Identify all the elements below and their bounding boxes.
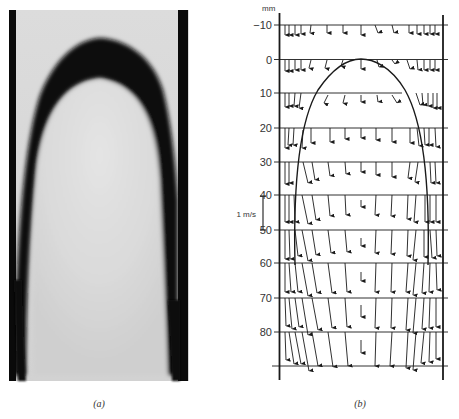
caption-b: (b) — [354, 398, 366, 410]
y-tick: 60 — [260, 257, 272, 269]
y-tick: −10 — [253, 19, 272, 31]
y-tick: 0 — [266, 54, 272, 66]
figure: (a) — [0, 0, 459, 419]
y-tick: 50 — [260, 224, 272, 236]
y-tick: 70 — [260, 292, 272, 304]
y-tick: 20 — [260, 122, 272, 134]
y-tick-labels: −10 0 10 20 30 40 50 60 70 80 — [253, 19, 272, 338]
y-tick: 80 — [260, 326, 272, 338]
y-tick: 40 — [260, 189, 272, 201]
axis-unit-label: mm — [262, 4, 276, 13]
y-tick: 30 — [260, 156, 272, 168]
panel-a-photo — [9, 10, 189, 381]
panel-b-diagram — [260, 13, 448, 380]
gridlines — [272, 25, 448, 366]
scale-bar-label: 1 m/s — [236, 210, 256, 219]
y-tick: 10 — [260, 87, 272, 99]
velocity-vectors — [285, 25, 437, 371]
caption-a: (a) — [93, 398, 105, 410]
tube-wall-left — [9, 10, 16, 381]
